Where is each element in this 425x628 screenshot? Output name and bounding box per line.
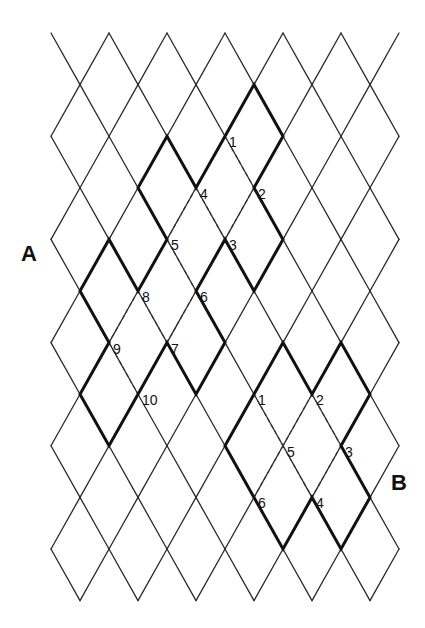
lattice-edge bbox=[80, 446, 109, 498]
figure-a-vertex-label: 1 bbox=[229, 134, 237, 150]
lattice-edge bbox=[370, 549, 399, 601]
lattice-edge bbox=[312, 291, 341, 343]
lattice-edge bbox=[254, 291, 283, 343]
lattice-edge bbox=[225, 497, 254, 549]
lattice-edge bbox=[109, 497, 138, 549]
lattice-edge bbox=[341, 239, 370, 291]
figure-a-vertex-label: 9 bbox=[113, 341, 121, 357]
figure-b-vertex-label: 4 bbox=[316, 495, 324, 511]
lattice-edge bbox=[80, 85, 109, 137]
lattice-edge bbox=[254, 549, 283, 601]
figure-a-dashed-edge bbox=[225, 188, 254, 240]
lattice-edge bbox=[225, 549, 254, 601]
lattice-edge bbox=[51, 85, 80, 137]
lattice-edge bbox=[283, 188, 312, 240]
lattice-edge bbox=[341, 291, 370, 343]
lattice-edge bbox=[109, 85, 138, 137]
lattice-edge bbox=[80, 497, 109, 549]
figure-b-dashed-edge bbox=[254, 446, 283, 498]
figure-a-vertex-label: 10 bbox=[142, 392, 158, 408]
lattice-edge bbox=[283, 136, 312, 188]
lattice-edge bbox=[225, 291, 254, 343]
lattice-edge bbox=[370, 497, 399, 549]
lattice-edge bbox=[51, 497, 80, 549]
lattice-edge bbox=[167, 33, 196, 85]
lattice-edge bbox=[370, 343, 399, 395]
figure-b-vertex-label: 5 bbox=[287, 444, 295, 460]
region-label-a: A bbox=[21, 241, 37, 266]
lattice-edge bbox=[225, 33, 254, 85]
lattice-edge bbox=[370, 136, 399, 188]
lattice-edge bbox=[109, 136, 138, 188]
lattice-edge bbox=[109, 549, 138, 601]
lattice-edge bbox=[283, 85, 312, 137]
figure-a-vertex-label: 2 bbox=[258, 186, 266, 202]
region-label-b: B bbox=[391, 470, 407, 495]
lattice-edge bbox=[80, 188, 109, 240]
lattice-edge bbox=[138, 446, 167, 498]
lattice-edge bbox=[196, 394, 225, 446]
lattice-edge bbox=[138, 85, 167, 137]
lattice-edge bbox=[80, 33, 109, 85]
lattice-grid bbox=[51, 33, 399, 601]
lattice-edge bbox=[51, 394, 80, 446]
lattice-edge bbox=[312, 188, 341, 240]
lattice-edge bbox=[138, 33, 167, 85]
lattice-edge bbox=[370, 33, 399, 85]
lattice-edge bbox=[341, 85, 370, 137]
figure-a-vertex-label: 6 bbox=[200, 289, 208, 305]
lattice-edge bbox=[283, 239, 312, 291]
lattice-edge bbox=[167, 85, 196, 137]
lattice-edge bbox=[225, 343, 254, 395]
figure-b-dashed-edge bbox=[312, 446, 341, 498]
figure-a-vertex-label: 3 bbox=[229, 237, 237, 253]
lattice-edge bbox=[196, 85, 225, 137]
lattice-edge bbox=[370, 188, 399, 240]
lattice-edge bbox=[283, 33, 312, 85]
lattice-edge bbox=[196, 549, 225, 601]
lattice-edge bbox=[167, 549, 196, 601]
lattice-edge bbox=[138, 497, 167, 549]
lattice-edge bbox=[109, 188, 138, 240]
lattice-edge bbox=[196, 33, 225, 85]
lattice-edge bbox=[109, 446, 138, 498]
lattice-edge bbox=[370, 291, 399, 343]
figure-a-vertex-label: 4 bbox=[200, 186, 208, 202]
lattice-edge bbox=[167, 394, 196, 446]
lattice-edge bbox=[51, 343, 80, 395]
lattice-edge bbox=[51, 188, 80, 240]
figure-b-vertex-label: 2 bbox=[316, 392, 324, 408]
figure-a-dashed-edge bbox=[109, 291, 138, 343]
figure-a-dashed-edge bbox=[167, 291, 196, 343]
lattice-edge bbox=[312, 85, 341, 137]
lattice-edge bbox=[51, 136, 80, 188]
lattice-edge bbox=[341, 188, 370, 240]
figure-a-dashed-edge bbox=[167, 188, 196, 240]
lattice-edge bbox=[312, 136, 341, 188]
lattice-edge bbox=[312, 549, 341, 601]
lattice-edge bbox=[196, 497, 225, 549]
lattice-edge bbox=[167, 446, 196, 498]
lattice-edge bbox=[51, 446, 80, 498]
lattice-edge bbox=[138, 549, 167, 601]
lattice-edge bbox=[80, 136, 109, 188]
lattice-edge bbox=[109, 33, 138, 85]
lattice-edge bbox=[51, 33, 80, 85]
lattice-edge bbox=[51, 291, 80, 343]
lattice-edge bbox=[370, 85, 399, 137]
lattice-edge bbox=[312, 33, 341, 85]
lattice-edge bbox=[370, 394, 399, 446]
lattice-edge bbox=[283, 549, 312, 601]
vertex-labels: 12345678910123456 bbox=[113, 134, 353, 511]
lattice-edge bbox=[51, 549, 80, 601]
lattice-edge bbox=[312, 239, 341, 291]
lattice-edge bbox=[341, 136, 370, 188]
figure-a-vertex-label: 8 bbox=[142, 289, 150, 305]
lattice-edge bbox=[283, 291, 312, 343]
lattice-edge bbox=[254, 33, 283, 85]
figure-a-vertex-label: 7 bbox=[171, 341, 179, 357]
lattice-edge bbox=[370, 239, 399, 291]
figure-b-vertex-label: 1 bbox=[258, 392, 266, 408]
figure-b-vertex-label: 6 bbox=[258, 495, 266, 511]
lattice-edge bbox=[196, 446, 225, 498]
